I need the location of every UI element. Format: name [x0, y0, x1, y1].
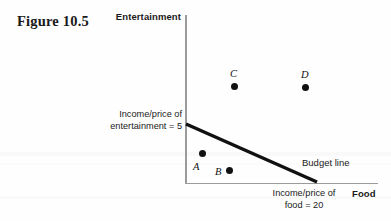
budget-line-graphic [0, 0, 391, 221]
figure-container: Figure 10.5 Entertainment Food Income/pr… [0, 0, 391, 221]
data-point-a [199, 150, 206, 157]
data-point-b [226, 167, 233, 174]
data-point-c [231, 83, 238, 90]
data-point-d [302, 84, 309, 91]
budget-line-segment [186, 124, 317, 182]
data-point-label-a: A [193, 161, 199, 172]
data-point-label-d: D [301, 69, 309, 80]
data-point-label-c: C [230, 68, 237, 79]
data-point-label-b: B [215, 166, 221, 177]
budget-line-label: Budget line [302, 157, 350, 168]
